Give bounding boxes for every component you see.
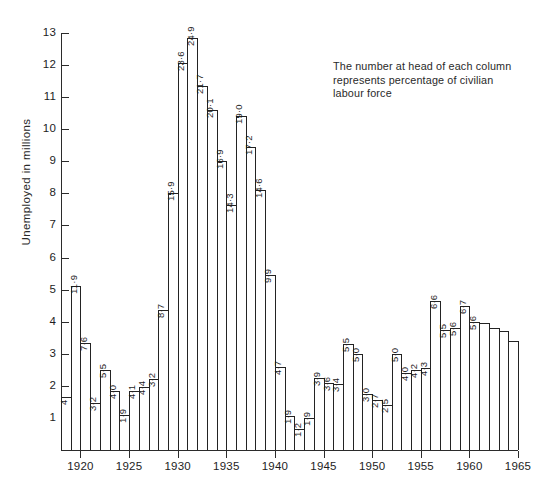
- bar-label-1920: 11·9: [68, 275, 79, 294]
- bar-label-1933: 21·7: [194, 74, 205, 94]
- annotation-line-1: The number at head of each column: [333, 60, 543, 74]
- bar-label-1935: 16·9: [214, 149, 225, 169]
- bar-label-1947: 3·4: [330, 378, 341, 392]
- unemployment-bar-chart: Unemployed in millions 12345678910111213…: [0, 0, 549, 492]
- bar-label-1952: 2·5: [379, 399, 390, 413]
- bar-label-1944: 1·9: [301, 412, 312, 426]
- bar-label-1939: 14·6: [253, 178, 264, 198]
- bar-label-1936: 14·3: [224, 193, 235, 213]
- bar-label-1932: 24·9: [185, 26, 196, 46]
- bar-label-1938: 17·2: [243, 135, 254, 155]
- bar-label-1960: 6·7: [457, 299, 468, 313]
- bar-label-1931: 23·6: [175, 52, 186, 72]
- bar-label-1961: 5·6: [467, 315, 478, 329]
- bar-label-1934: 20·1: [204, 98, 215, 118]
- bar-label-1919: 4: [58, 400, 69, 405]
- bar-label-1957: 6·6: [428, 294, 439, 308]
- bar-label-1929: 8·7: [155, 304, 166, 318]
- bar-label-1922: 3·2: [87, 397, 98, 411]
- bar-label-1940: 9·9: [262, 269, 273, 283]
- annotation-line-3: labour force: [333, 87, 543, 101]
- bar-label-1937: 19·0: [233, 105, 244, 125]
- bar-label-1956: 4·3: [418, 362, 429, 376]
- bar-label-1925: 1·9: [117, 408, 128, 422]
- bar-1965: [508, 341, 519, 450]
- bar-label-1928: 3·2: [146, 373, 157, 387]
- bar-label-1924: 4·0: [107, 384, 118, 398]
- bar-label-1949: 5·0: [350, 347, 361, 361]
- bar-label-1953: 5·0: [389, 347, 400, 361]
- annotation-line-2: represents percentage of civilian: [333, 74, 543, 88]
- bar-label-1930: 15·9: [165, 182, 176, 202]
- bar-label-1921: 7·6: [78, 336, 89, 350]
- bar-label-1923: 5·5: [97, 363, 108, 377]
- bar-label-1959: 5·6: [447, 322, 458, 336]
- bar-label-1941: 4·7: [272, 360, 283, 374]
- chart-annotation: The number at head of each column repres…: [333, 60, 543, 101]
